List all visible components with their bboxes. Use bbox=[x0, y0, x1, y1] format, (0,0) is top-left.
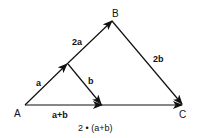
point-label-a: A bbox=[14, 108, 21, 119]
vector-2b bbox=[112, 21, 182, 104]
label-b: b bbox=[88, 76, 94, 86]
label-2b: 2b bbox=[153, 54, 164, 64]
point-label-b: B bbox=[112, 8, 119, 19]
vector-a bbox=[25, 64, 67, 105]
vector-diagram: A B C a 2a b 2b a+b 2 • (a+b) bbox=[0, 0, 198, 138]
vector-b bbox=[68, 64, 101, 104]
point-label-c: C bbox=[179, 109, 186, 120]
label-a: a bbox=[36, 78, 42, 88]
label-2-a-plus-b: 2 • (a+b) bbox=[78, 123, 112, 133]
label-a-plus-b: a+b bbox=[52, 110, 68, 120]
label-2a: 2a bbox=[72, 37, 83, 47]
